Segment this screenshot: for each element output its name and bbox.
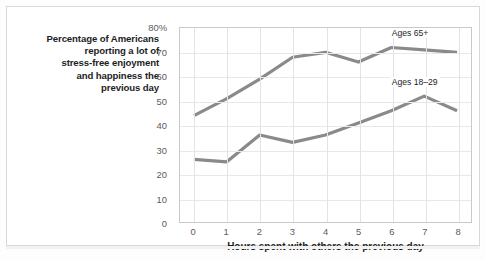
gridline-horizontal	[180, 200, 471, 201]
x-tick-label: 2	[257, 226, 262, 237]
y-tick-label: 70	[157, 46, 167, 57]
y-tick-label: 10	[157, 193, 167, 204]
chart-screenshot: Percentage of Americans reporting a lot …	[0, 0, 485, 260]
x-tick-label: 5	[356, 226, 361, 237]
series-label-1: Ages 18–29	[390, 77, 440, 87]
y-tick-label: 80%	[148, 22, 167, 33]
series-label-0: Ages 65+	[390, 28, 431, 38]
gridline-vertical	[393, 28, 394, 222]
x-axis-tick-labels: 012345678	[179, 226, 472, 242]
x-tick-label: 4	[323, 226, 328, 237]
x-tick-label: 6	[389, 226, 394, 237]
gridline-vertical	[227, 28, 228, 222]
gridline-horizontal	[180, 175, 471, 176]
gridline-vertical	[260, 28, 261, 222]
gridline-vertical	[194, 28, 195, 222]
y-tick-label: 0	[162, 218, 167, 229]
gridline-vertical	[293, 28, 294, 222]
series-line-1	[194, 96, 457, 162]
y-axis-tick-labels: 01020304050607080%	[135, 27, 173, 223]
x-tick-label: 3	[290, 226, 295, 237]
y-tick-label: 20	[157, 169, 167, 180]
x-tick-label: 1	[224, 226, 229, 237]
y-tick-label: 30	[157, 144, 167, 155]
gridline-vertical	[459, 28, 460, 222]
x-tick-label: 8	[455, 226, 460, 237]
gridline-horizontal	[180, 151, 471, 152]
y-tick-label: 60	[157, 71, 167, 82]
gridline-horizontal	[180, 53, 471, 54]
gridline-vertical	[426, 28, 427, 222]
plot-area-wrapper: Ages 65+Ages 18–29	[179, 27, 472, 223]
chart-card: Percentage of Americans reporting a lot …	[6, 6, 480, 246]
gridline-vertical	[360, 28, 361, 222]
x-tick-label: 7	[422, 226, 427, 237]
gridline-horizontal	[180, 126, 471, 127]
x-tick-label: 0	[190, 226, 195, 237]
y-tick-label: 40	[157, 120, 167, 131]
y-tick-label: 50	[157, 95, 167, 106]
gridline-horizontal	[180, 102, 471, 103]
gridline-vertical	[327, 28, 328, 222]
x-axis-title: Hours spent with others the previous day	[179, 241, 472, 252]
plot-area	[179, 27, 472, 223]
